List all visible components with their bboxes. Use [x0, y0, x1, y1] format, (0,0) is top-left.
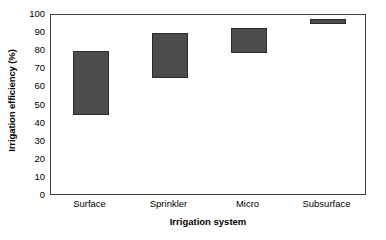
x-axis-tick-labels: SurfaceSprinklerMicroSubsurface: [50, 198, 366, 214]
irrigation-efficiency-chart: Irrigation efficiency (%) 10090807060504…: [0, 0, 386, 240]
bar-sprinkler[interactable]: [152, 33, 188, 78]
x-tick-label-subsurface: Subsurface: [302, 198, 350, 209]
y-tick-label: 0: [40, 190, 45, 200]
y-tick-label: 60: [34, 82, 45, 92]
y-tick-label: 10: [34, 172, 45, 182]
bar-slot: [51, 15, 130, 194]
x-tick-label-micro: Micro: [236, 198, 259, 209]
bar-micro[interactable]: [231, 28, 267, 53]
bar-surface[interactable]: [73, 51, 109, 114]
x-tick-label-sprinkler: Sprinkler: [150, 198, 188, 209]
y-tick-label: 40: [34, 118, 45, 128]
bar-slot: [130, 15, 209, 194]
y-tick-label: 20: [34, 154, 45, 164]
y-axis-title: Irrigation efficiency (%): [0, 0, 22, 200]
y-axis-title-text: Irrigation efficiency (%): [6, 49, 17, 152]
plot-area: [50, 14, 366, 195]
bar-slot: [209, 15, 288, 194]
y-axis-tick-labels: 1009080706050403020100: [22, 14, 48, 195]
y-tick-label: 90: [34, 27, 45, 37]
y-tick-label: 30: [34, 136, 45, 146]
y-tick-label: 100: [29, 9, 45, 19]
bar-slot: [288, 15, 367, 194]
y-tick-label: 50: [34, 100, 45, 110]
y-tick-label: 70: [34, 64, 45, 74]
bar-subsurface[interactable]: [310, 19, 346, 24]
x-tick-label-surface: Surface: [73, 198, 106, 209]
y-tick-label: 80: [34, 45, 45, 55]
x-axis-title: Irrigation system: [50, 216, 366, 227]
